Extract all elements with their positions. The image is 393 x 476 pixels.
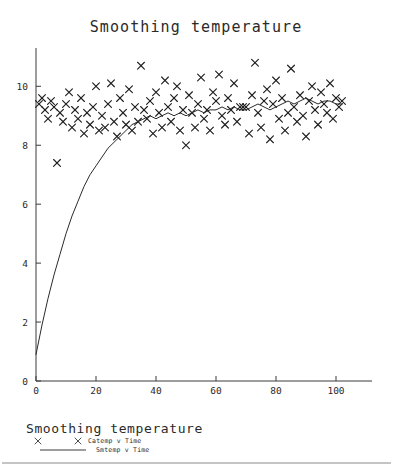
scatter-point (150, 130, 157, 137)
scatter-point (315, 121, 322, 128)
scatter-point (192, 124, 199, 131)
scatter-point (279, 95, 286, 102)
scatter-point (171, 95, 178, 102)
scatter-point (225, 95, 232, 102)
chart-figure: Smoothing temperature 0246810 0204060801… (0, 0, 393, 476)
scatter-point (219, 112, 226, 119)
scatter-point (267, 136, 274, 143)
axes (36, 48, 372, 381)
scatter-point (156, 109, 163, 116)
scatter-point (246, 130, 253, 137)
scatter-point (255, 109, 262, 116)
scatter-point (60, 118, 67, 125)
scatter-point (282, 127, 289, 134)
scatter-point (312, 106, 319, 113)
y-tick-label: 2 (22, 317, 28, 328)
scatter-point (72, 106, 79, 113)
scatter-point (231, 80, 238, 87)
scatter-point (111, 118, 118, 125)
scatter-point (300, 112, 307, 119)
scatter-point (198, 74, 205, 81)
x-axis-ticks: 020406080100 (33, 376, 345, 396)
scatter-point (273, 77, 280, 84)
x-tick-label: 80 (270, 385, 282, 396)
legend-label-smtemp: Smtemp v Time (96, 446, 149, 454)
scatter-point (45, 115, 52, 122)
scatter-point (258, 124, 265, 131)
scatter-point (162, 77, 169, 84)
scatter-point (249, 92, 256, 99)
y-tick-label: 6 (22, 199, 28, 210)
scatter-point (186, 92, 193, 99)
x-tick-label: 40 (150, 385, 162, 396)
scatter-point (264, 86, 271, 93)
y-axis-ticks: 0246810 (17, 81, 41, 387)
scatter-point (108, 80, 115, 87)
scatter-point (210, 89, 217, 96)
scatter-point (90, 104, 97, 111)
scatter-point (222, 121, 229, 128)
scatter-point (261, 98, 268, 105)
scatter-point (63, 101, 70, 108)
scatter-point (75, 115, 82, 122)
scatter-point (105, 101, 112, 108)
scatter-point (207, 127, 214, 134)
x-tick-label: 20 (90, 385, 102, 396)
scatter-series-catemp (36, 59, 346, 166)
scatter-point (54, 160, 61, 167)
x-tick-label: 0 (33, 385, 39, 396)
scatter-point (129, 127, 136, 134)
scatter-point (291, 104, 298, 111)
scatter-point (183, 142, 190, 149)
x-marker-icon (35, 438, 81, 444)
scatter-point (66, 89, 73, 96)
scatter-point (174, 83, 181, 90)
scatter-point (138, 62, 145, 69)
x-tick-label: 60 (210, 385, 222, 396)
scatter-point (177, 127, 184, 134)
scatter-point (327, 80, 334, 87)
chart-legend: Smoothing temperature Catemp v Time Smte… (26, 421, 203, 454)
scatter-point (168, 118, 175, 125)
legend-entry-catemp: Catemp v Time (35, 437, 141, 445)
scatter-point (78, 95, 85, 102)
scatter-point (216, 71, 223, 78)
scatter-point (303, 133, 310, 140)
scatter-point (288, 65, 295, 72)
scatter-point (99, 112, 106, 119)
scatter-point (120, 109, 127, 116)
y-tick-label: 8 (22, 140, 28, 151)
scatter-point (147, 98, 154, 105)
legend-label-catemp: Catemp v Time (88, 437, 141, 445)
scatter-point (234, 118, 241, 125)
scatter-point (117, 95, 124, 102)
scatter-point (276, 115, 283, 122)
scatter-point (153, 89, 160, 96)
scatter-point (180, 106, 187, 113)
y-tick-label: 0 (22, 376, 28, 387)
scatter-point (213, 98, 220, 105)
scatter-point (57, 109, 64, 116)
line-series-smtemp (36, 98, 342, 354)
scatter-point (42, 106, 49, 113)
scatter-point (159, 124, 166, 131)
scatter-point (309, 83, 316, 90)
scatter-point (201, 115, 208, 122)
legend-title: Smoothing temperature (26, 421, 203, 436)
scatter-point (165, 104, 172, 111)
legend-entry-smtemp: Smtemp v Time (40, 446, 149, 454)
x-tick-label: 100 (327, 385, 344, 396)
scatter-point (195, 101, 202, 108)
scatter-point (87, 121, 94, 128)
page-title: Smoothing temperature (90, 18, 303, 36)
scatter-point (69, 124, 76, 131)
scatter-point (270, 101, 277, 108)
scatter-point (93, 83, 100, 90)
scatter-point (126, 86, 133, 93)
scatter-point (318, 89, 325, 96)
scatter-point (81, 130, 88, 137)
scatter-point (330, 115, 337, 122)
scatter-point (252, 59, 259, 66)
y-tick-label: 4 (22, 258, 28, 269)
scatter-point (141, 106, 148, 113)
